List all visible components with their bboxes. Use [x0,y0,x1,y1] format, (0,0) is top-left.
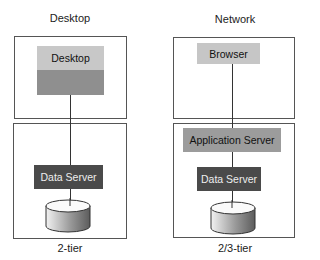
browser-block: Browser [197,43,260,64]
right-database-cylinder-icon [209,200,257,236]
desktop-block-label: Desktop [37,46,104,70]
desktop-block-lower [37,70,104,95]
left-column-title: Desktop [20,12,120,24]
left-connector-line [70,90,71,215]
left-data-server-block: Data Server [34,165,103,189]
right-caption: 2/3-tier [185,242,285,254]
left-database-cylinder-icon [44,198,92,234]
left-caption: 2-tier [20,242,120,254]
right-data-server-block: Data Server [197,167,261,191]
left-desktop-block: Desktop [37,46,104,95]
application-server-block: Application Server [183,128,281,152]
right-column-title: Network [185,13,285,25]
